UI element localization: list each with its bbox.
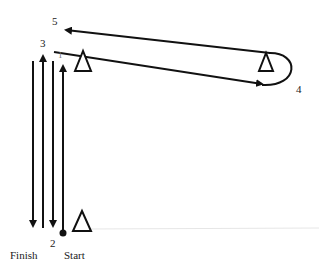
drill-diagram: 5 3 1 4 2 Finish Start [0,0,319,275]
label-2: 2 [50,237,56,249]
label-4: 4 [296,83,302,95]
label-1: 1 [58,50,63,60]
start-point-dot [60,230,67,237]
cone-far-icon [259,53,273,71]
label-finish: Finish [10,249,38,261]
label-5: 5 [52,15,58,27]
label-3: 3 [40,37,46,49]
leg-left-to-5-arrow [66,30,270,53]
cone-start-icon [73,211,91,231]
cone-near-icon [75,51,91,71]
fold-line [88,228,319,229]
label-start: Start [64,249,85,261]
